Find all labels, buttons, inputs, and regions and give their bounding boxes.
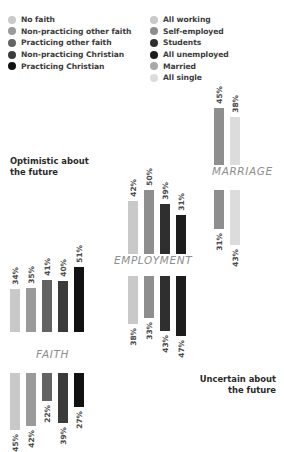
legend-status-item[interactable]: All unemployed bbox=[150, 49, 229, 61]
bar-group: 43% bbox=[230, 190, 240, 260]
faith-uncertain-bar-value: 39% bbox=[59, 427, 68, 445]
marriage-uncertain-bar bbox=[214, 190, 224, 229]
faith-optimistic-bar bbox=[26, 288, 36, 332]
bar-group: 22% bbox=[42, 373, 52, 443]
faith-optimistic-bar-value: 35% bbox=[27, 266, 36, 284]
legend-status-item[interactable]: Married bbox=[150, 60, 229, 72]
legend-status-label: Married bbox=[163, 62, 196, 71]
employment-uncertain-bar bbox=[160, 276, 170, 331]
bar-group: 42% bbox=[128, 188, 138, 254]
faith-uncertain-bar bbox=[26, 373, 36, 426]
faith-optimistic-bar bbox=[10, 289, 20, 332]
bar-group: 40% bbox=[58, 262, 68, 332]
legend-status-item[interactable]: All working bbox=[150, 14, 229, 26]
legend-swatch-icon bbox=[150, 51, 158, 59]
faith-bars-optimistic: 34%35%41%40%51% bbox=[10, 262, 84, 332]
legend-faith-label: Non-practicing Christian bbox=[21, 50, 124, 59]
legend-status-label: All working bbox=[163, 15, 211, 24]
employment-uncertain-bar bbox=[176, 276, 186, 336]
bar-group: 50% bbox=[144, 188, 154, 254]
legend-status-label: All unemployed bbox=[163, 50, 229, 59]
marriage-bars-uncertain: 31%43% bbox=[214, 190, 240, 260]
chart-title-faith: FAITH bbox=[36, 348, 69, 360]
employment-optimistic-bar bbox=[160, 204, 170, 254]
legend-swatch-icon bbox=[150, 62, 158, 70]
legend-status-item[interactable]: Students bbox=[150, 37, 229, 49]
legend-faith-item[interactable]: Practicing other faith bbox=[8, 37, 131, 49]
bar-group: 51% bbox=[74, 262, 84, 332]
legend-faith-item[interactable]: No faith bbox=[8, 14, 131, 26]
legend-faith: No faithNon-practicing other faithPracti… bbox=[8, 14, 131, 72]
faith-uncertain-bar bbox=[58, 373, 68, 423]
legend-swatch-icon bbox=[8, 62, 16, 70]
faith-uncertain-bar-value: 42% bbox=[27, 430, 36, 448]
bar-group: 39% bbox=[160, 188, 170, 254]
employment-uncertain-bar-value: 47% bbox=[177, 340, 186, 358]
marriage-bars-optimistic: 45%38% bbox=[214, 95, 240, 165]
legend-faith-item[interactable]: Non-practicing Christian bbox=[8, 49, 131, 61]
legend-faith-label: No faith bbox=[21, 15, 55, 24]
legend-status-item[interactable]: All single bbox=[150, 72, 229, 84]
bar-group: 35% bbox=[26, 262, 36, 332]
legend-swatch-icon bbox=[150, 74, 158, 82]
bar-group: 45% bbox=[10, 373, 20, 443]
employment-optimistic-bar bbox=[176, 215, 186, 254]
legend-swatch-icon bbox=[8, 51, 16, 59]
faith-uncertain-bar bbox=[42, 373, 52, 401]
bar-group: 38% bbox=[230, 95, 240, 165]
bar-group: 41% bbox=[42, 262, 52, 332]
employment-optimistic-bar-value: 39% bbox=[161, 182, 170, 200]
marriage-optimistic-bar-value: 38% bbox=[231, 95, 240, 113]
faith-uncertain-bar-value: 45% bbox=[11, 434, 20, 452]
bar-group: 38% bbox=[128, 276, 138, 342]
legend-status: All workingSelf-employedStudentsAll unem… bbox=[150, 14, 229, 84]
employment-bars-uncertain: 38%33%43%47% bbox=[128, 276, 186, 342]
faith-optimistic-bar bbox=[58, 281, 68, 332]
faith-optimistic-bar-value: 34% bbox=[11, 267, 20, 285]
employment-optimistic-bar-value: 31% bbox=[177, 193, 186, 211]
legend-swatch-icon bbox=[150, 39, 158, 47]
faith-optimistic-bar bbox=[74, 267, 84, 332]
faith-uncertain-bar-value: 22% bbox=[43, 405, 52, 423]
marriage-uncertain-bar-value: 43% bbox=[231, 249, 240, 267]
caption-optimistic-about-the-future: Optimistic about the future bbox=[10, 156, 89, 178]
legend-status-label: All single bbox=[163, 73, 202, 82]
faith-optimistic-bar-value: 40% bbox=[59, 259, 68, 277]
legend-swatch-icon bbox=[150, 16, 158, 24]
legend-faith-label: Practicing Christian bbox=[21, 62, 104, 71]
legend-swatch-icon bbox=[8, 39, 16, 47]
marriage-optimistic-bar-value: 45% bbox=[215, 86, 224, 104]
marriage-optimistic-bar bbox=[214, 108, 224, 165]
legend-faith-item[interactable]: Non-practicing other faith bbox=[8, 26, 131, 38]
faith-uncertain-bar bbox=[10, 373, 20, 430]
employment-optimistic-bar-value: 50% bbox=[145, 168, 154, 186]
employment-uncertain-bar-value: 33% bbox=[145, 322, 154, 340]
bar-group: 27% bbox=[74, 373, 84, 443]
chart-marriage: 45%38% MARRIAGE 31%43% bbox=[214, 85, 284, 270]
employment-optimistic-bar bbox=[128, 201, 138, 254]
legend-faith-label: Practicing other faith bbox=[21, 38, 112, 47]
marriage-uncertain-bar bbox=[230, 190, 240, 245]
bar-group: 45% bbox=[214, 95, 224, 165]
employment-uncertain-bar bbox=[128, 276, 138, 324]
employment-uncertain-bar bbox=[144, 276, 154, 318]
legend-swatch-icon bbox=[8, 27, 16, 35]
legend-status-item[interactable]: Self-employed bbox=[150, 26, 229, 38]
employment-bars-optimistic: 42%50%39%31% bbox=[128, 188, 186, 254]
bar-group: 42% bbox=[26, 373, 36, 443]
faith-uncertain-bar bbox=[74, 373, 84, 407]
legend-faith-label: Non-practicing other faith bbox=[21, 27, 131, 36]
employment-uncertain-bar-value: 43% bbox=[161, 335, 170, 353]
chart-employment: 42%50%39%31% EMPLOYMENT 38%33%43%47% bbox=[128, 170, 204, 360]
bar-group: 31% bbox=[176, 188, 186, 254]
chart-title-marriage: MARRIAGE bbox=[212, 165, 273, 177]
employment-uncertain-bar-value: 38% bbox=[129, 328, 138, 346]
employment-optimistic-bar-value: 42% bbox=[129, 179, 138, 197]
bar-group: 33% bbox=[144, 276, 154, 342]
faith-optimistic-bar-value: 41% bbox=[43, 258, 52, 276]
marriage-optimistic-bar bbox=[230, 117, 240, 165]
legend-swatch-icon bbox=[8, 16, 16, 24]
faith-uncertain-bar-value: 27% bbox=[75, 411, 84, 429]
employment-optimistic-bar bbox=[144, 190, 154, 254]
legend-faith-item[interactable]: Practicing Christian bbox=[8, 60, 131, 72]
